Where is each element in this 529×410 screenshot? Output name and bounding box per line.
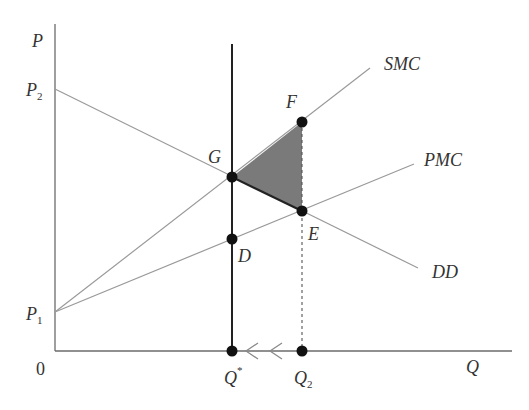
q2-label: Q2 [294, 368, 313, 390]
externality-diagram: P Q 0 P2 P1 Q* Q2 SMC PMC DD F G E D [0, 0, 529, 410]
q-star-label: Q* [224, 364, 243, 388]
smc-label: SMC [384, 54, 421, 74]
point-d [227, 234, 238, 245]
origin-label: 0 [36, 359, 45, 379]
x-axis-label: Q [466, 357, 479, 377]
point-e-label: E [307, 224, 319, 244]
point-e [297, 206, 308, 217]
point-d-label: D [237, 246, 251, 266]
point-f-label: F [285, 92, 298, 112]
smc-curve [55, 68, 370, 312]
point-g [227, 172, 238, 183]
p1-label: P1 [25, 304, 43, 326]
p2-label: P2 [25, 80, 43, 102]
point-g-label: G [208, 147, 221, 167]
dd-label: DD [431, 262, 458, 282]
point-f [297, 117, 308, 128]
y-axis-label: P [31, 31, 43, 51]
point-q2 [297, 346, 308, 357]
point-q-star [227, 346, 238, 357]
pmc-label: PMC [423, 150, 463, 170]
